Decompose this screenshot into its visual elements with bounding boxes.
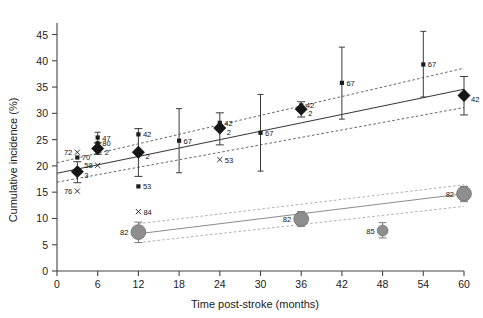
point-label: 53 — [225, 156, 233, 165]
marker-square — [136, 184, 140, 188]
point-label: 2 — [105, 148, 109, 157]
x-tick-label: 6 — [95, 278, 101, 290]
point-label: 72 — [64, 148, 72, 157]
y-tick-label: 15 — [36, 186, 48, 198]
x-tick-label: 48 — [377, 278, 389, 290]
marker-square — [96, 135, 100, 139]
marker-square — [258, 131, 262, 135]
marker-square — [136, 132, 140, 136]
y-tick-label: 0 — [42, 265, 48, 277]
marker-square — [75, 155, 79, 159]
point-labels: 3222242704780425367426742676772765853848… — [64, 60, 480, 237]
marker-diamond — [71, 165, 83, 177]
y-tick-label: 30 — [36, 107, 48, 119]
y-tick-label: 10 — [36, 212, 48, 224]
y-tick-label: 5 — [42, 239, 48, 251]
point-label: 85 — [366, 227, 374, 236]
y-tick-label: 40 — [36, 55, 48, 67]
marker-square — [218, 121, 222, 125]
x-tick-label: 54 — [417, 278, 429, 290]
point-label: 58 — [84, 161, 92, 170]
point-label: 67 — [265, 129, 273, 138]
y-tick-label: 35 — [36, 81, 48, 93]
cumulative-incidence-scatter-plot: 06121824303642485460051015202530354045 3… — [0, 0, 483, 318]
axes: 06121824303642485460051015202530354045 — [36, 23, 470, 290]
x-tick-label: 18 — [173, 278, 185, 290]
x-tick-label: 42 — [336, 278, 348, 290]
point-label: 80 — [102, 139, 110, 148]
y-tick-label: 20 — [36, 160, 48, 172]
marker-circle — [294, 212, 309, 227]
point-label: 67 — [346, 79, 354, 88]
chart-container: 06121824303642485460051015202530354045 3… — [0, 0, 483, 318]
y-tick-label: 25 — [36, 134, 48, 146]
y-axis-title: Cumulative incidence (%) — [7, 98, 19, 223]
point-label: 82 — [283, 215, 291, 224]
x-tick-label: 24 — [214, 278, 226, 290]
point-label: 76 — [64, 187, 72, 196]
point-label: 3 — [84, 171, 88, 180]
marker-square — [177, 139, 181, 143]
point-label: 2 — [227, 128, 231, 137]
point-label: 82 — [446, 190, 454, 199]
marker-diamond — [132, 146, 144, 158]
marker-diamond — [458, 89, 470, 101]
marker-square — [421, 62, 425, 66]
point-label: 82 — [120, 228, 128, 237]
x-tick-label: 30 — [255, 278, 267, 290]
x-tick-label: 12 — [133, 278, 145, 290]
point-label: 67 — [428, 60, 436, 69]
point-label: 42 — [143, 130, 151, 139]
point-label: 84 — [143, 208, 151, 217]
point-label: 67 — [184, 137, 192, 146]
point-label: 42 — [471, 95, 479, 104]
marker-circle — [131, 225, 146, 240]
point-label: 2 — [145, 152, 149, 161]
x-tick-label: 60 — [458, 278, 470, 290]
marker-circle — [377, 225, 388, 236]
point-label: 42 — [224, 119, 232, 128]
x-tick-label: 36 — [295, 278, 307, 290]
point-label: 42 — [306, 101, 314, 110]
marker-square — [340, 81, 344, 85]
y-tick-label: 45 — [36, 29, 48, 41]
point-label: 53 — [143, 182, 151, 191]
marker-circle — [457, 186, 472, 201]
marker-square — [96, 141, 100, 145]
x-tick-label: 0 — [54, 278, 60, 290]
x-axis-title: Time post-stroke (months) — [191, 298, 319, 310]
marker-square — [299, 103, 303, 107]
